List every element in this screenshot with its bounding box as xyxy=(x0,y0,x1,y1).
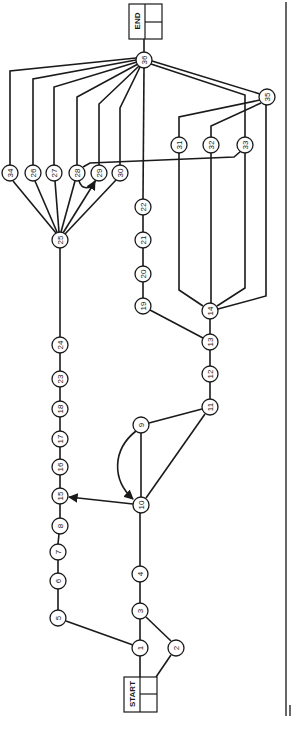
node-26: 26 xyxy=(25,165,41,181)
node-label: 27 xyxy=(50,168,59,177)
node-36: 36 xyxy=(136,52,152,68)
node-31: 31 xyxy=(171,137,187,153)
node-label: 23 xyxy=(56,374,65,383)
node-label: 5 xyxy=(54,615,63,620)
node-label: 22 xyxy=(139,202,148,211)
node-label: 4 xyxy=(136,571,145,576)
end-box: END xyxy=(129,4,162,39)
node-label: 14 xyxy=(206,306,215,315)
node-32: 32 xyxy=(203,137,219,153)
node-label: 1 xyxy=(136,645,145,650)
node-label: 16 xyxy=(56,462,65,471)
node-8: 8 xyxy=(52,518,68,534)
node-4: 4 xyxy=(132,566,148,582)
node-label: 28 xyxy=(73,168,82,177)
node-25: 25 xyxy=(52,232,68,248)
node-23: 23 xyxy=(52,371,68,387)
node-12: 12 xyxy=(202,366,218,382)
network-diagram: END START 123456789101112131415161718192… xyxy=(0,0,292,729)
node-label: 25 xyxy=(56,235,65,244)
node-label: 9 xyxy=(137,422,146,427)
node-24: 24 xyxy=(52,337,68,353)
node-label: 29 xyxy=(95,168,104,177)
node-label: 36 xyxy=(140,55,149,64)
node-label: 26 xyxy=(29,168,38,177)
node-5: 5 xyxy=(50,610,66,626)
node-20: 20 xyxy=(135,266,151,282)
nodes: 1234567891011121314151617181920212223242… xyxy=(2,52,275,656)
node-label: 30 xyxy=(116,168,125,177)
node-label: 7 xyxy=(54,549,63,554)
node-label: 32 xyxy=(207,140,216,149)
node-3: 3 xyxy=(132,603,148,619)
node-2: 2 xyxy=(168,640,184,656)
node-label: 17 xyxy=(56,434,65,443)
node-34: 34 xyxy=(2,165,18,181)
start-label: START xyxy=(128,681,137,707)
node-15: 15 xyxy=(52,488,68,504)
node-label: 10 xyxy=(137,500,146,509)
node-label: 33 xyxy=(241,140,250,149)
node-11: 11 xyxy=(202,399,218,415)
node-label: 18 xyxy=(56,404,65,413)
node-label: 19 xyxy=(139,301,148,310)
node-19: 19 xyxy=(135,298,151,314)
node-label: 12 xyxy=(206,369,215,378)
node-6: 6 xyxy=(50,573,66,589)
node-label: 24 xyxy=(56,340,65,349)
node-9: 9 xyxy=(133,417,149,433)
node-17: 17 xyxy=(52,431,68,447)
node-label: 3 xyxy=(136,608,145,613)
node-33: 33 xyxy=(237,137,253,153)
node-label: 15 xyxy=(56,491,65,500)
node-22: 22 xyxy=(135,199,151,215)
end-label: END xyxy=(133,12,142,29)
node-label: 21 xyxy=(139,235,148,244)
node-label: 13 xyxy=(206,337,215,346)
node-label: 35 xyxy=(263,92,272,101)
node-10: 10 xyxy=(133,497,149,513)
node-1: 1 xyxy=(132,640,148,656)
node-35: 35 xyxy=(259,89,275,105)
node-28: 28 xyxy=(69,165,85,181)
node-label: 2 xyxy=(172,645,181,650)
node-label: 11 xyxy=(206,402,215,411)
node-label: 31 xyxy=(175,140,184,149)
node-18: 18 xyxy=(52,401,68,417)
node-29: 29 xyxy=(91,165,107,181)
node-27: 27 xyxy=(46,165,62,181)
node-13: 13 xyxy=(202,334,218,350)
start-box: START xyxy=(124,677,157,712)
node-label: 34 xyxy=(6,168,15,177)
node-label: 20 xyxy=(139,269,148,278)
node-21: 21 xyxy=(135,232,151,248)
node-14: 14 xyxy=(202,303,218,319)
node-label: 6 xyxy=(54,578,63,583)
node-7: 7 xyxy=(50,544,66,560)
node-label: 8 xyxy=(56,523,65,528)
node-30: 30 xyxy=(112,165,128,181)
node-16: 16 xyxy=(52,459,68,475)
